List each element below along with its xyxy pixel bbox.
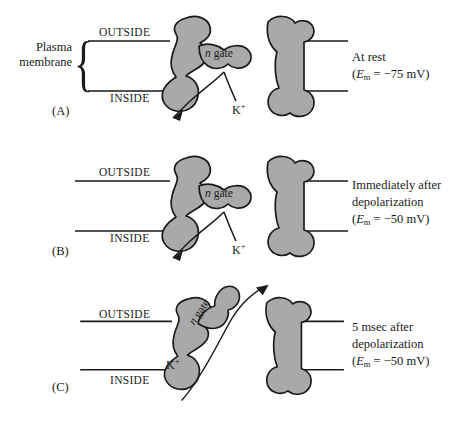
potassium-ion-label-c: K+ [166,357,179,372]
em-value-c: −50 mV [384,354,425,368]
panel-c: OUTSIDE INSIDE n gate K+ 5 msec after de… [0,275,457,415]
outside-label-c: OUTSIDE [99,308,150,321]
potassium-symbol-a: K [232,103,241,117]
channel-subunit-right [267,156,314,256]
panel-b: OUTSIDE INSIDE n gate K+ Immediately aft… [0,140,457,280]
plasma-membrane-line2: membrane [19,55,72,69]
plasma-membrane-brace: { [74,33,93,95]
em-equals-b: = [370,212,383,226]
outside-label-a: OUTSIDE [99,26,150,39]
em-suffix-c: ) [425,354,429,368]
em-equals-c: = [370,354,383,368]
caption-c-em: (Em = −50 mV) [352,354,429,369]
em-suffix-b: ) [425,212,429,226]
inside-label-a: INSIDE [110,92,150,105]
panel-a: Plasma membrane { OUTSIDE INSIDE n gate … [0,0,457,140]
potassium-charge-c: + [175,356,180,366]
inside-label-b: INSIDE [110,232,150,245]
em-equals-a: = [370,67,383,81]
em-symbol-b: E [356,212,364,226]
outside-label-b: OUTSIDE [99,166,150,179]
potassium-symbol-c: K [166,358,175,372]
em-value-b: −50 mV [384,212,425,226]
channel-subunit-right [266,298,311,395]
channel-subunit-right [267,16,314,116]
plasma-membrane-line1: Plasma [36,40,72,54]
n-gate-word-a: gate [214,47,233,59]
channel-subunit-left [162,156,210,251]
n-gate-label-a: n gate [205,47,233,60]
panel-b-graphics [0,140,457,282]
panel-letter-b: (B) [52,244,69,258]
caption-b-line1: Immediately after [352,178,441,192]
caption-c-line2: depolarization [352,337,424,351]
em-value-a: −75 mV [384,67,425,81]
caption-a-line1: At rest [352,50,386,64]
caption-c-line1: 5 msec after [352,320,413,334]
caption-a-em: (Em = −75 mV) [352,67,429,82]
em-suffix-a: ) [425,67,429,81]
potassium-symbol-b: K [232,243,241,257]
inside-label-c: INSIDE [110,374,150,387]
caption-b-em: (Em = −50 mV) [352,212,429,227]
potassium-charge-a: + [241,101,246,111]
potassium-ion-label-a: K+ [232,102,245,117]
n-gate-word-b: gate [214,187,233,199]
channel-subunit-left [162,16,210,111]
potassium-charge-b: + [241,241,246,251]
em-symbol-c: E [356,354,364,368]
panel-letter-a: (A) [52,104,69,118]
panel-letter-c: (C) [52,380,69,394]
n-gate-label-b: n gate [205,187,233,200]
n-gate-italic-n-a: n [205,47,211,59]
em-symbol-a: E [356,67,364,81]
n-gate-italic-n-b: n [205,187,211,199]
potassium-ion-label-b: K+ [232,242,245,257]
plasma-membrane-label: Plasma membrane [8,40,72,71]
caption-b-line2: depolarization [352,195,424,209]
